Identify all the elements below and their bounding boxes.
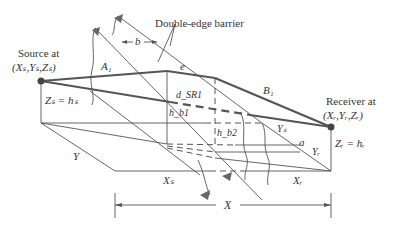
source-label-1: Source at [18, 47, 59, 59]
dSR1-label: d_SR1 [176, 89, 202, 100]
ray-source-edge1 [41, 71, 167, 81]
B1-label: B₁ [263, 84, 274, 96]
x-dimension [115, 193, 331, 218]
X-label: X [223, 198, 232, 212]
barrier-label: Double-edge barrier [155, 17, 244, 29]
XS-label: Xₛ [162, 174, 175, 186]
Y-label: Y [73, 150, 81, 162]
ray-edge1-edge2 [167, 71, 215, 78]
b-label: b [135, 35, 141, 47]
A1-label: A₁ [100, 60, 112, 72]
source-label-2: (Xₛ,Yₛ,Zₛ) [12, 61, 56, 74]
a-label: a [299, 136, 305, 148]
receiver-label-2: (Xᵣ,Yᵣ,Zᵣ) [323, 109, 363, 122]
hb1-label: h_b1 [169, 107, 189, 118]
XR-label: Xᵣ [292, 174, 303, 186]
receiver-point [328, 124, 335, 131]
barrier-hatch-icons [92, 14, 232, 200]
source-height-label: Zₛ = hₛ [45, 94, 79, 106]
receiver-height-label: Zᵣ = hᵣ [335, 137, 365, 149]
double-edge-barrier-diagram: Double-edge barrier b Source at (Xₛ,Yₛ,Z… [0, 0, 394, 233]
hb2-label: h_b2 [217, 127, 237, 138]
YR-label: Yᵣ [312, 146, 321, 157]
receiver-label-1: Receiver at [326, 95, 376, 107]
e-label: e [180, 60, 185, 72]
YS-label: Yₛ [277, 123, 287, 134]
source-point [38, 78, 45, 85]
